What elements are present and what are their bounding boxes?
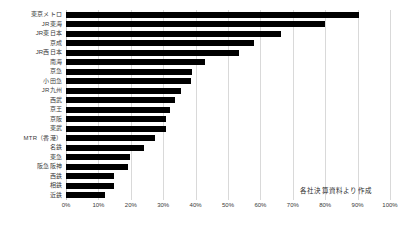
category-label: 京成 <box>0 39 62 49</box>
bar <box>66 59 205 65</box>
bar <box>66 78 191 84</box>
bar-row <box>66 143 390 153</box>
bar-row <box>66 115 390 125</box>
bar-row <box>66 10 390 20</box>
category-label: 近鉄 <box>0 191 62 201</box>
x-tick-label: 10% <box>92 202 104 208</box>
category-label: 西武 <box>0 96 62 106</box>
bar <box>66 145 144 151</box>
bar <box>66 107 170 113</box>
x-tick-label: 100% <box>382 202 397 208</box>
x-tick-label: 80% <box>319 202 331 208</box>
bar-row <box>66 105 390 115</box>
bar-row <box>66 67 390 77</box>
bar <box>66 88 181 94</box>
category-label: 名鉄 <box>0 143 62 153</box>
x-tick-label: 50% <box>222 202 234 208</box>
category-label: JR九州 <box>0 86 62 96</box>
category-label: 阪急阪神 <box>0 162 62 172</box>
bar <box>66 31 281 37</box>
bar <box>66 40 254 46</box>
bar <box>66 173 114 179</box>
category-label: 京阪 <box>0 115 62 125</box>
bar-row <box>66 124 390 134</box>
bar-row <box>66 48 390 58</box>
bar-row <box>66 96 390 106</box>
category-label: JR西日本 <box>0 48 62 58</box>
category-label: MTR（香港） <box>0 134 62 144</box>
x-tick-label: 60% <box>254 202 266 208</box>
x-tick-label: 40% <box>190 202 202 208</box>
bar-row <box>66 58 390 68</box>
x-tick-label: 0% <box>62 202 71 208</box>
gridline-100% <box>390 10 391 200</box>
bar <box>66 12 359 18</box>
x-tick-label: 20% <box>125 202 137 208</box>
category-label: 京急 <box>0 67 62 77</box>
category-label: 東急 <box>0 153 62 163</box>
source-note: 各社決算資料より作成 <box>300 185 372 195</box>
x-tick-label: 70% <box>287 202 299 208</box>
bar <box>66 126 166 132</box>
bar <box>66 50 239 56</box>
bar <box>66 183 114 189</box>
category-label: 東京メトロ <box>0 10 62 20</box>
category-label: 南海 <box>0 58 62 68</box>
bar <box>66 164 128 170</box>
bar <box>66 192 105 198</box>
bar-row <box>66 153 390 163</box>
bar-chart: 東京メトロJR東海JR東日本京成JR西日本南海京急小田急JR九州西武京王京阪東武… <box>0 0 408 234</box>
bar-row <box>66 134 390 144</box>
bar <box>66 97 175 103</box>
category-label: 東武 <box>0 124 62 134</box>
category-label: 京王 <box>0 105 62 115</box>
bar-row <box>66 86 390 96</box>
category-label: 西鉄 <box>0 172 62 182</box>
bar-row <box>66 77 390 87</box>
bar <box>66 21 325 27</box>
bar-row <box>66 29 390 39</box>
bar <box>66 135 155 141</box>
category-label: JR東日本 <box>0 29 62 39</box>
x-tick-label: 90% <box>352 202 364 208</box>
category-label: 相鉄 <box>0 181 62 191</box>
bar-row <box>66 172 390 182</box>
bar-row <box>66 162 390 172</box>
category-label: 小田急 <box>0 77 62 87</box>
bar <box>66 69 192 75</box>
bar-row <box>66 39 390 49</box>
category-label: JR東海 <box>0 20 62 30</box>
bar <box>66 116 166 122</box>
x-axis: 0%10%20%30%40%50%60%70%80%90%100% <box>66 202 390 216</box>
bar <box>66 154 130 160</box>
bar-row <box>66 20 390 30</box>
x-tick-label: 30% <box>157 202 169 208</box>
plot-area <box>66 10 390 200</box>
